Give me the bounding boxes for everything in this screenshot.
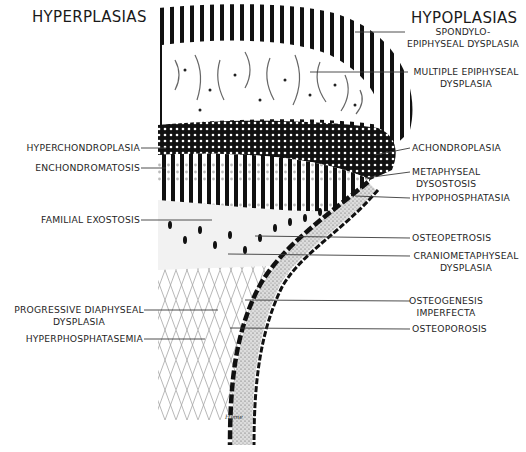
- label-osteoporosis: OSTEOPOROSIS: [412, 323, 487, 335]
- label-line-1: MULTIPLE EPIPHYSEAL: [408, 66, 524, 78]
- label-line-2: DYSPLASIA: [14, 316, 144, 328]
- bone-dysplasia-diagram: HYPERPLASIAS HYPOPLASIAS HYPERCHONDROPLA…: [0, 0, 526, 452]
- label-spondyloepiphyseal-dysplasia: SPONDYLO- EPIPHYSEAL DYSPLASIA: [400, 26, 526, 50]
- label-line-2: IMPERFECTA: [408, 307, 484, 319]
- label-line-2: DYSPLASIA: [408, 78, 524, 90]
- label-line-2: EPIPHYSEAL DYSPLASIA: [400, 38, 526, 50]
- heading-hyperplasias: HYPERPLASIAS: [32, 8, 147, 26]
- label-line-1: SPONDYLO-: [400, 26, 526, 38]
- label-line-2: DYSOSTOSIS: [412, 178, 480, 190]
- label-multiple-epiphyseal-dysplasia: MULTIPLE EPIPHYSEAL DYSPLASIA: [408, 66, 524, 90]
- label-line-1: OSTEOGENESIS: [408, 295, 484, 307]
- label-osteogenesis-imperfecta: OSTEOGENESIS IMPERFECTA: [408, 295, 484, 319]
- label-craniometaphyseal-dysplasia: CRANIOMETAPHYSEAL DYSPLASIA: [408, 250, 524, 274]
- label-hyperchondroplasia: HYPERCHONDROPLASIA: [27, 142, 141, 154]
- label-familial-exostosis: FAMILIAL EXOSTOSIS: [41, 214, 140, 226]
- label-osteopetrosis: OSTEOPETROSIS: [412, 232, 491, 244]
- label-hyperphosphatasemia: HYPERPHOSPHATASEMIA: [26, 333, 143, 345]
- label-line-1: PROGRESSIVE DIAPHYSEAL: [14, 304, 144, 316]
- artist-signature: Hyme: [225, 413, 243, 420]
- label-hypophosphatasia: HYPOPHOSPHATASIA: [412, 192, 510, 204]
- label-line-1: CRANIOMETAPHYSEAL: [408, 250, 524, 262]
- label-achondroplasia: ACHONDROPLASIA: [412, 142, 501, 154]
- label-line-2: DYSPLASIA: [408, 262, 524, 274]
- heading-hypoplasias: HYPOPLASIAS: [411, 9, 517, 27]
- label-enchondromatosis: ENCHONDROMATOSIS: [35, 162, 140, 174]
- label-metaphyseal-dysostosis: METAPHYSEAL DYSOSTOSIS: [412, 166, 480, 190]
- label-line-1: METAPHYSEAL: [412, 166, 480, 178]
- label-progressive-diaphyseal-dysplasia: PROGRESSIVE DIAPHYSEAL DYSPLASIA: [14, 304, 144, 328]
